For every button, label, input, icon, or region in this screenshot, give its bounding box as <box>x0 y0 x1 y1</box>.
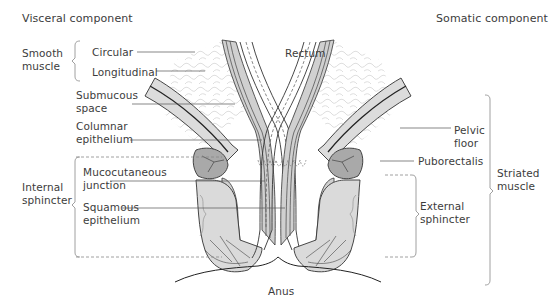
anus-label: Anus <box>268 285 294 297</box>
pelvic-floor-label: Pelvic floor <box>454 124 485 150</box>
mucocutaneous-junction-label: Mucocutaneous junction <box>83 166 167 192</box>
striated-muscle-group-label: Striated muscle <box>497 167 540 193</box>
somatic-component-header: Somatic component <box>436 12 548 25</box>
smooth-muscle-group-label: Smooth muscle <box>22 47 63 73</box>
internal-sphincter-group-label: Internal sphincter <box>22 181 72 207</box>
right-wall <box>252 40 411 272</box>
perineum-skin-line <box>175 257 381 282</box>
columnar-epithelium-label: Columnar epithelium <box>76 120 133 146</box>
longitudinal-label: Longitudinal <box>92 66 158 79</box>
circular-label: Circular <box>92 46 133 59</box>
anal-canal-anatomy-diagram: Visceral component Somatic component Rec… <box>0 0 556 297</box>
submucous-space-label: Submucous space <box>76 89 138 115</box>
squamous-epithelium-label: Squamous epithelium <box>83 201 140 227</box>
puborectalis-label: Puborectalis <box>418 155 483 168</box>
external-sphincter-label: External sphincter <box>420 200 470 226</box>
rectum-label: Rectum <box>285 47 326 60</box>
left-wall <box>145 40 304 272</box>
visceral-component-header: Visceral component <box>22 12 133 25</box>
